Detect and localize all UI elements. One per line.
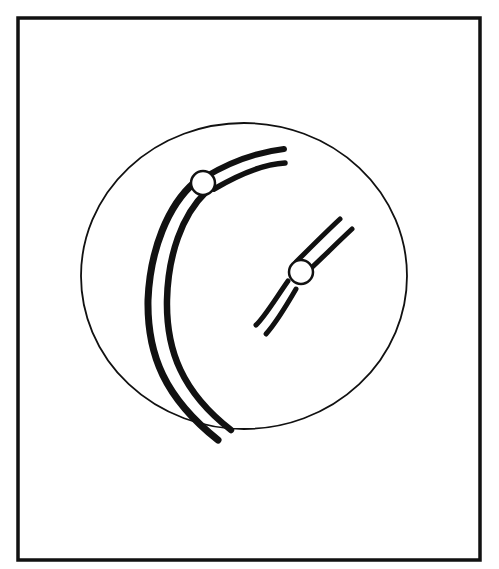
small-chromosome-centromere bbox=[289, 260, 313, 284]
small-chromosome-chromatid-lower-b bbox=[266, 289, 296, 334]
frame-border bbox=[18, 18, 480, 560]
cell-membrane bbox=[81, 123, 407, 429]
small-chromosome-chromatid-lower-a bbox=[256, 281, 288, 325]
large-chromosome bbox=[148, 149, 285, 440]
small-chromosome-chromatid-upper-a bbox=[296, 219, 340, 262]
diagram-canvas bbox=[0, 0, 499, 569]
large-chromosome-centromere bbox=[191, 171, 215, 195]
